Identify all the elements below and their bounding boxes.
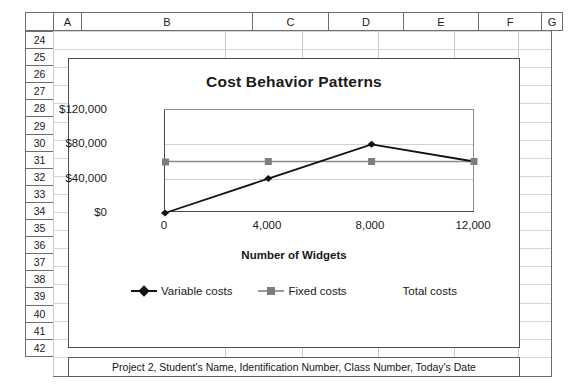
legend-item-total-costs[interactable]: Total costs (373, 285, 457, 297)
column-header-b[interactable]: B (81, 12, 253, 31)
row-header-37[interactable]: 37 (25, 253, 54, 271)
row-header-26[interactable]: 26 (25, 65, 54, 83)
legend-marker-square-icon (258, 286, 284, 296)
marker-fixed-0 (162, 159, 169, 166)
series-lines (165, 110, 475, 213)
column-header-row: A B C D E F G (25, 12, 563, 31)
column-header-d[interactable]: D (328, 12, 404, 31)
legend-label-fixed-costs: Fixed costs (288, 285, 346, 297)
y-tick-label-0: $0 (15, 206, 107, 218)
y-tick-label-120000: $120,000 (15, 103, 107, 115)
legend-marker-diamond-icon (131, 286, 157, 296)
x-tick-label-8000: 8,000 (356, 219, 385, 231)
marker-fixed-4000 (265, 158, 272, 165)
row-header-38[interactable]: 38 (25, 270, 54, 288)
spreadsheet-canvas: A B C D E F G 24252627282930313233343536… (0, 0, 576, 384)
embedded-chart[interactable]: Cost Behavior Patterns $120,000 $80,000 … (68, 58, 520, 348)
row-divider-24 (53, 31, 551, 32)
y-tick-label-80000: $80,000 (15, 137, 107, 149)
marker-fixed-12000 (471, 158, 478, 165)
column-header-e[interactable]: E (403, 12, 479, 31)
row-header-35[interactable]: 35 (25, 219, 54, 237)
x-tick-label-4000: 4,000 (253, 219, 282, 231)
row-header-33[interactable]: 33 (25, 185, 54, 203)
row-header-25[interactable]: 25 (25, 48, 54, 66)
marker-variable-8000 (368, 141, 376, 148)
column-header-a[interactable]: A (53, 12, 82, 31)
footer-info-cell[interactable]: Project 2, Student's Name, Identificatio… (68, 357, 520, 377)
x-tick-label-0: 0 (161, 219, 167, 231)
column-header-c[interactable]: C (252, 12, 329, 31)
row-header-31[interactable]: 31 (25, 151, 54, 169)
legend-item-fixed-costs[interactable]: Fixed costs (258, 285, 346, 297)
row-header-29[interactable]: 29 (25, 116, 54, 134)
legend-item-variable-costs[interactable]: Variable costs (131, 285, 232, 297)
chart-legend[interactable]: Variable costs Fixed costs Total costs (69, 281, 519, 301)
legend-label-variable-costs: Variable costs (161, 285, 232, 297)
y-tick-label-40000: $40,000 (15, 172, 107, 184)
column-header-g[interactable]: G (541, 12, 563, 31)
row-header-41[interactable]: 41 (25, 322, 54, 340)
row-header-36[interactable]: 36 (25, 236, 54, 254)
row-header-42[interactable]: 42 (25, 339, 54, 357)
series-line-variable-costs (165, 144, 474, 213)
column-header-f[interactable]: F (478, 12, 542, 31)
plot-area (164, 109, 474, 212)
row-header-39[interactable]: 39 (25, 287, 54, 305)
marker-fixed-8000 (368, 158, 375, 165)
x-tick-label-12000: 12,000 (455, 219, 490, 231)
legend-label-total-costs: Total costs (403, 285, 457, 297)
chart-title: Cost Behavior Patterns (69, 73, 519, 91)
x-axis-title: Number of Widgets (69, 249, 519, 261)
row-header-40[interactable]: 40 (25, 305, 54, 323)
row-header-24[interactable]: 24 (25, 31, 54, 49)
column-divider-a (53, 31, 54, 376)
marker-variable-4000 (264, 175, 272, 182)
legend-marker-none-icon (373, 286, 399, 296)
row-header-column: 24252627282930313233343536373839404142 (25, 31, 54, 357)
select-all-corner[interactable] (25, 12, 54, 31)
row-divider-25 (53, 49, 551, 50)
marker-variable-0 (161, 210, 169, 217)
row-header-27[interactable]: 27 (25, 82, 54, 100)
